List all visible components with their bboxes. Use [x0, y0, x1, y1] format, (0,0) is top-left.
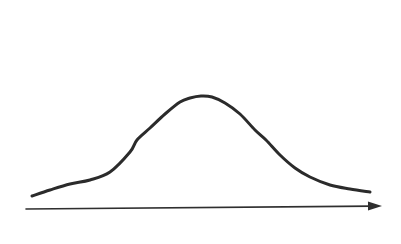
bell-curve-path — [32, 96, 370, 196]
bell-curve-figure: Hand-drawn normal distribution curve abo… — [0, 0, 401, 244]
x-axis-line — [26, 206, 372, 209]
figure-svg-canvas — [0, 0, 401, 244]
axis-arrowhead-icon — [368, 202, 382, 211]
